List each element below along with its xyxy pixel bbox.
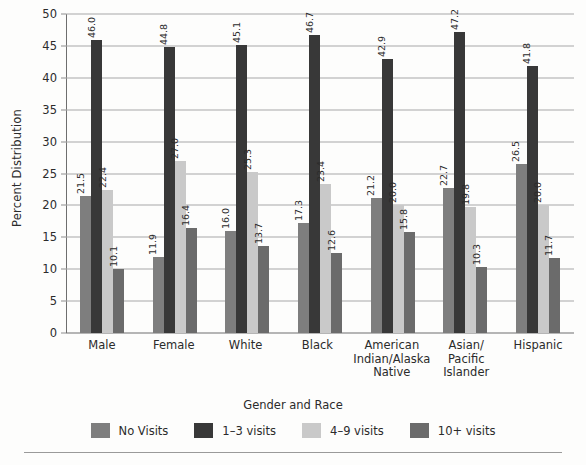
x-tick-label-line: Asian/ — [430, 339, 502, 353]
bar[interactable]: 16.4 — [186, 228, 197, 333]
bar[interactable]: 47.2 — [454, 32, 465, 333]
bar[interactable]: 25.3 — [247, 172, 258, 333]
legend-item[interactable]: 1–3 visits — [194, 423, 276, 438]
x-tick-label-line: American — [353, 339, 430, 353]
legend-item[interactable]: 4–9 visits — [302, 423, 384, 438]
bar-value-label: 45.1 — [231, 22, 242, 43]
bar[interactable]: 10.1 — [113, 269, 124, 333]
bar[interactable]: 22.7 — [443, 188, 454, 333]
bar-group: 21.242.920.015.8 — [356, 14, 429, 333]
x-tick-label-line: Islander — [430, 366, 502, 380]
x-tick-label-line: Black — [281, 339, 353, 353]
bar[interactable]: 27.0 — [175, 161, 186, 333]
y-axis-title: Percent Distribution — [6, 0, 28, 335]
bar-value-label: 46.0 — [86, 16, 97, 37]
x-tick-label: AmericanIndian/AlaskaNative — [353, 339, 430, 380]
x-tick-label: Asian/PacificIslander — [430, 339, 502, 380]
bar[interactable]: 11.7 — [549, 258, 560, 333]
bar[interactable]: 10.3 — [476, 267, 487, 333]
bar-value-label: 21.5 — [75, 173, 86, 194]
x-axis-title: Gender and Race — [0, 398, 586, 412]
bar-value-label: 21.2 — [365, 175, 376, 196]
bar-value-label: 27.0 — [169, 138, 180, 159]
x-axis-title-text: Gender and Race — [243, 398, 343, 412]
legend-label: 10+ visits — [438, 424, 496, 438]
bar-group: 26.541.820.011.7 — [501, 14, 574, 333]
bar[interactable]: 11.9 — [153, 257, 164, 333]
legend-swatch — [91, 423, 110, 438]
bar-value-label: 20.0 — [387, 182, 398, 203]
bar-group: 22.747.219.810.3 — [429, 14, 502, 333]
footer-divider — [24, 452, 562, 453]
y-axis-title-text: Percent Distribution — [10, 108, 24, 226]
legend-swatch — [194, 423, 213, 438]
bar[interactable]: 21.2 — [371, 198, 382, 333]
bar[interactable]: 46.7 — [309, 35, 320, 333]
legend-item[interactable]: 10+ visits — [410, 423, 496, 438]
bar-value-label: 22.7 — [438, 165, 449, 186]
x-tick-label-line: Pacific — [430, 353, 502, 367]
bar-value-label: 13.7 — [253, 222, 264, 243]
chart-legend: No Visits1–3 visits4–9 visits10+ visits — [0, 423, 586, 438]
bar[interactable]: 23.4 — [320, 184, 331, 333]
y-tick-label: 30 — [42, 135, 66, 149]
bar-group: 21.546.022.410.1 — [66, 14, 139, 333]
bar-value-label: 11.7 — [543, 235, 554, 256]
y-tick-label: 0 — [50, 326, 66, 340]
y-tick-label: 15 — [42, 230, 66, 244]
x-tick-label: White — [210, 339, 282, 380]
bar-value-label: 11.9 — [147, 234, 158, 255]
x-tick-label-line: Indian/Alaska — [353, 353, 430, 367]
bar[interactable]: 17.3 — [298, 223, 309, 333]
bar-value-label: 22.4 — [97, 167, 108, 188]
legend-label: 1–3 visits — [222, 424, 276, 438]
bar-group: 17.346.723.412.6 — [284, 14, 357, 333]
x-tick-label: Black — [281, 339, 353, 380]
y-tick-label: 10 — [42, 262, 66, 276]
bar[interactable]: 20.0 — [538, 205, 549, 333]
legend-label: 4–9 visits — [330, 424, 384, 438]
bar[interactable]: 45.1 — [236, 45, 247, 333]
bar-value-label: 10.1 — [108, 245, 119, 266]
bar[interactable]: 44.8 — [164, 47, 175, 333]
y-tick-label: 40 — [42, 71, 66, 85]
bar-value-label: 16.4 — [180, 205, 191, 226]
bar-group: 11.944.827.016.4 — [139, 14, 212, 333]
bar[interactable]: 13.7 — [258, 246, 269, 333]
bar-value-label: 20.0 — [532, 182, 543, 203]
bar-value-label: 42.9 — [376, 36, 387, 57]
bar-value-label: 17.3 — [293, 199, 304, 220]
chart-figure: Percent Distribution 0510152025303540455… — [0, 0, 586, 465]
bar[interactable]: 16.0 — [225, 231, 236, 333]
y-tick-label: 25 — [42, 167, 66, 181]
legend-item[interactable]: No Visits — [91, 423, 169, 438]
bar-group: 16.045.125.313.7 — [211, 14, 284, 333]
y-tick-label: 50 — [42, 7, 66, 21]
legend-swatch — [410, 423, 429, 438]
bar-groups: 21.546.022.410.111.944.827.016.416.045.1… — [66, 14, 574, 333]
bar[interactable]: 15.8 — [404, 232, 415, 333]
legend-swatch — [302, 423, 321, 438]
bar-value-label: 44.8 — [158, 24, 169, 45]
x-tick-label-line: Native — [353, 366, 430, 380]
x-tick-label-line: White — [210, 339, 282, 353]
x-tick-label: Female — [138, 339, 210, 380]
bar-value-label: 23.4 — [315, 161, 326, 182]
y-tick-label: 20 — [42, 198, 66, 212]
bar-value-label: 41.8 — [521, 43, 532, 64]
bar[interactable]: 21.5 — [80, 196, 91, 333]
bar-value-label: 46.7 — [304, 12, 315, 33]
bar-value-label: 19.8 — [460, 184, 471, 205]
bar[interactable]: 19.8 — [465, 207, 476, 333]
plot-area: 05101520253035404550 21.546.022.410.111.… — [66, 14, 574, 333]
x-tick-label: Male — [66, 339, 138, 380]
legend-label: No Visits — [119, 424, 169, 438]
bar-value-label: 12.6 — [326, 229, 337, 250]
y-tick-label: 45 — [42, 39, 66, 53]
bar[interactable]: 26.5 — [516, 164, 527, 333]
bar-value-label: 16.0 — [220, 208, 231, 229]
bar-value-label: 26.5 — [510, 141, 521, 162]
y-tick-label: 5 — [50, 294, 66, 308]
x-tick-label-line: Female — [138, 339, 210, 353]
bar[interactable]: 12.6 — [331, 253, 342, 333]
